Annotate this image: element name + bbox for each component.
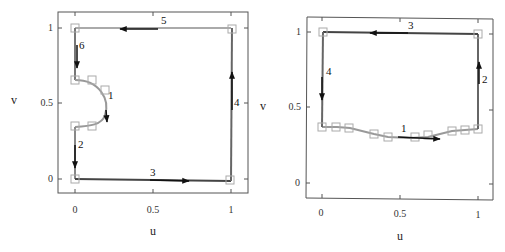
left-seg-label-6: 6	[79, 39, 85, 51]
right-ytick-0: 0	[295, 177, 300, 188]
left-xtick-1: 1	[229, 204, 234, 215]
right-xtick-0.5: 0.5	[394, 208, 407, 219]
left-seg-label-2: 2	[78, 138, 84, 150]
left-xtick-0: 0	[73, 204, 78, 215]
left-seg-label-1: 1	[108, 89, 114, 101]
left-segment-1	[75, 80, 106, 127]
arrow-left-3	[150, 180, 189, 181]
right-boundary-curves	[322, 32, 478, 138]
left-ytick-1: 1	[48, 22, 53, 33]
left-seg-label-3: 3	[150, 166, 156, 178]
left-seg-label-4: 4	[234, 96, 240, 108]
right-ylabel: v	[260, 99, 266, 113]
left-seg-label-5: 5	[161, 14, 167, 26]
right-ticks	[306, 17, 493, 200]
arrow-left-1	[106, 110, 107, 122]
right-xlabel: u	[397, 229, 403, 243]
left-plot: 0 0.5 1 0 0.5 1 u v	[11, 12, 248, 238]
figure-canvas: 0 0.5 1 0 0.5 1 u v	[0, 0, 505, 252]
left-xtick-0.5: 0.5	[147, 204, 160, 215]
right-ytick-1: 1	[296, 26, 301, 37]
left-xlabel: u	[150, 224, 156, 238]
right-control-points	[318, 28, 482, 141]
right-plot-frame	[306, 17, 493, 200]
right-seg-label-1: 1	[401, 122, 407, 134]
left-boundary-curves	[75, 28, 232, 181]
right-ytick-0.5: 0.5	[289, 101, 302, 112]
left-ytick-0: 0	[48, 173, 53, 184]
left-ytick-0.5: 0.5	[41, 97, 54, 108]
left-direction-arrows	[75, 29, 232, 181]
right-xtick-1: 1	[476, 209, 481, 220]
right-xtick-0: 0	[319, 207, 324, 218]
right-seg-label-3: 3	[408, 19, 414, 31]
right-plot: 0 0.5 1 0 0.5 1 u v 1 2 3 4	[260, 17, 493, 243]
right-seg-label-4: 4	[326, 65, 332, 77]
left-control-points	[71, 24, 236, 184]
right-seg-label-2: 2	[482, 73, 488, 85]
left-ylabel: v	[11, 93, 17, 107]
